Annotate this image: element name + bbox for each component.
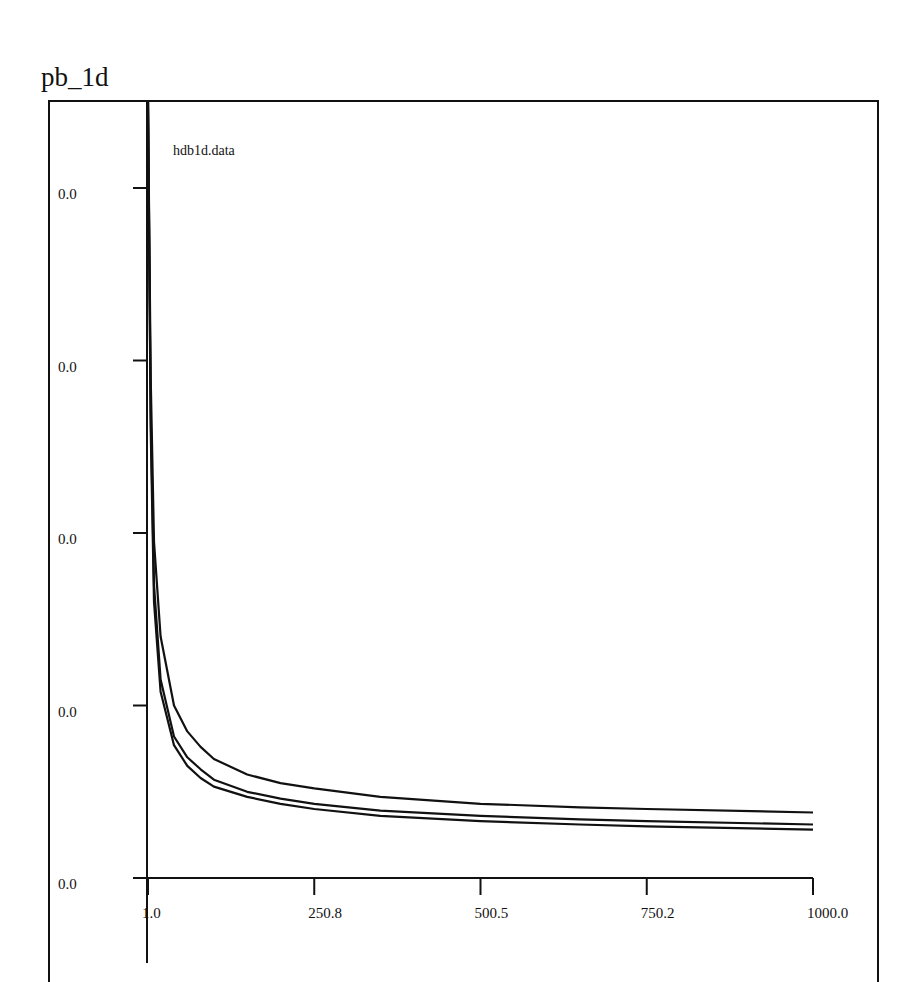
data-curve	[148, 101, 813, 813]
y-tick-label: 0.0	[58, 876, 77, 893]
y-tick-label: 0.0	[58, 704, 77, 721]
x-tick-label: 750.2	[641, 905, 675, 922]
y-tick-label: 0.0	[58, 359, 77, 376]
axes	[133, 101, 813, 963]
x-tick-label: 1000.0	[807, 905, 848, 922]
x-tick-label: 1.0	[142, 905, 161, 922]
data-curve	[148, 101, 813, 830]
x-tick-label: 500.5	[475, 905, 509, 922]
curves	[148, 101, 813, 830]
y-tick-label: 0.0	[58, 186, 77, 203]
data-curve	[148, 101, 813, 825]
y-tick-label: 0.0	[58, 531, 77, 548]
dataset-label: hdb1d.data	[173, 143, 235, 159]
x-tick-label: 250.8	[308, 905, 342, 922]
